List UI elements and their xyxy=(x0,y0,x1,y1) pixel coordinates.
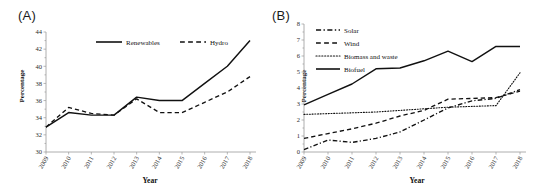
x-tick-label: 2018 xyxy=(511,155,524,170)
y-tick-label: 44 xyxy=(36,28,43,35)
x-tick-label: 2012 xyxy=(367,155,380,170)
legend-label-hydro: Hydro xyxy=(210,39,228,47)
chart-b-svg: 0123456782009201020112012201320142015201… xyxy=(272,0,544,190)
y-tick-label: 2 xyxy=(297,116,300,123)
legend-label-biofuel: Biofuel xyxy=(344,66,365,74)
x-tick-label: 2013 xyxy=(127,155,140,170)
y-tick-label: 7 xyxy=(297,36,301,43)
y-tick-label: 6 xyxy=(297,52,301,59)
y-tick-label: 4 xyxy=(297,84,301,91)
x-tick-label: 2009 xyxy=(295,155,308,170)
legend-label-wind: Wind xyxy=(344,40,360,48)
legend-label-biomass-and-waste: Biomass and waste xyxy=(344,53,398,61)
x-tick-label: 2016 xyxy=(463,154,476,169)
x-tick-label: 2017 xyxy=(218,154,231,169)
y-tick-label: 34 xyxy=(36,114,43,121)
x-tick-label: 2010 xyxy=(59,155,72,170)
chart-panel-b: (B) Percentage Year 01234567820092010201… xyxy=(272,0,544,190)
figure-container: (A) Percentage Year 30323436384042442009… xyxy=(0,0,544,190)
series-line-biomass-and-waste xyxy=(304,73,520,115)
y-tick-label: 8 xyxy=(297,20,300,27)
x-tick-label: 2014 xyxy=(150,154,163,169)
series-line-solar xyxy=(304,90,520,150)
y-tick-label: 30 xyxy=(36,148,43,155)
chart-a-svg: 3032343638404244200920102011201220132014… xyxy=(0,0,272,190)
x-tick-label: 2015 xyxy=(173,155,186,170)
x-tick-label: 2014 xyxy=(415,154,428,169)
x-tick-label: 2012 xyxy=(105,155,118,170)
y-tick-label: 40 xyxy=(36,63,43,70)
series-line-biofuel xyxy=(304,46,520,104)
y-tick-label: 5 xyxy=(297,68,300,75)
legend-label-renewables: Renewables xyxy=(126,39,160,47)
x-tick-label: 2009 xyxy=(37,155,50,170)
y-tick-label: 32 xyxy=(36,131,43,138)
x-tick-label: 2016 xyxy=(195,154,208,169)
legend-label-solar: Solar xyxy=(344,27,359,35)
x-tick-label: 2017 xyxy=(487,154,500,169)
y-tick-label: 36 xyxy=(36,97,43,104)
x-tick-label: 2011 xyxy=(82,155,94,170)
chart-panel-a: (A) Percentage Year 30323436384042442009… xyxy=(0,0,272,190)
y-tick-label: 3 xyxy=(297,100,300,107)
series-line-wind xyxy=(304,91,520,138)
y-tick-label: 0 xyxy=(297,148,300,155)
y-tick-label: 38 xyxy=(36,80,43,87)
x-tick-label: 2015 xyxy=(439,155,452,170)
x-tick-label: 2013 xyxy=(391,155,404,170)
y-tick-label: 1 xyxy=(297,132,300,139)
x-tick-label: 2011 xyxy=(343,155,355,170)
series-line-renewables xyxy=(46,41,250,128)
x-tick-label: 2018 xyxy=(241,155,254,170)
y-tick-label: 42 xyxy=(36,45,43,52)
series-line-hydro xyxy=(46,77,250,128)
x-tick-label: 2010 xyxy=(319,155,332,170)
